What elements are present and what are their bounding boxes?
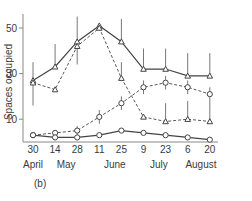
x-tick-label: 9	[141, 144, 147, 155]
triangle-marker	[119, 75, 125, 80]
series-solid-circle	[30, 128, 212, 142]
x-tick-label: 20	[204, 144, 216, 155]
triangle-marker	[163, 66, 169, 71]
circle-marker	[119, 101, 124, 106]
y-tick-label: 50	[6, 23, 18, 34]
triangle-marker	[141, 114, 147, 119]
triangle-marker	[207, 73, 213, 78]
circle-marker	[163, 133, 168, 138]
month-label: April	[23, 159, 43, 170]
panel-label: (b)	[34, 178, 46, 189]
line-chart: 1030503014281125923620AprilMayJuneJulyAu…	[0, 0, 252, 201]
month-label: July	[150, 159, 168, 170]
circle-marker	[97, 133, 102, 138]
x-tick-label: 23	[160, 144, 172, 155]
circle-marker	[163, 80, 168, 85]
x-tick-label: 14	[50, 144, 62, 155]
circle-marker	[185, 85, 190, 90]
circle-marker	[75, 128, 80, 133]
x-tick-label: 28	[72, 144, 84, 155]
month-label: June	[104, 159, 126, 170]
x-tick-label: 6	[185, 144, 191, 155]
triangle-marker	[185, 116, 191, 121]
circle-marker	[141, 85, 146, 90]
circle-marker	[185, 135, 190, 140]
x-tick-label: 25	[116, 144, 128, 155]
circle-marker	[119, 128, 124, 133]
labels-group: 1030503014281125923620AprilMayJuneJulyAu…	[3, 23, 217, 171]
series-group	[30, 17, 212, 143]
circle-marker	[97, 114, 102, 119]
circle-marker	[75, 135, 80, 140]
circle-marker	[207, 137, 212, 142]
x-tick-label: 11	[94, 144, 105, 155]
circle-marker	[53, 135, 58, 140]
triangle-marker	[185, 73, 191, 78]
triangle-marker	[163, 119, 169, 124]
y-axis-label: Spaces occupied	[3, 44, 14, 120]
circle-marker	[30, 133, 35, 138]
triangle-marker	[207, 119, 213, 124]
month-label: May	[57, 159, 76, 170]
triangle-marker	[52, 87, 58, 92]
circle-marker	[141, 130, 146, 135]
circle-marker	[207, 92, 212, 97]
x-tick-label: 30	[27, 144, 39, 155]
month-label: August	[185, 159, 216, 170]
